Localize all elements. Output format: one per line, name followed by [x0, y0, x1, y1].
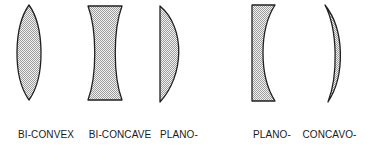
- lens-label-line: CONCAVO-: [292, 129, 367, 141]
- concavo-convex-lens-icon: [292, 0, 367, 106]
- lens-label-line: PLANO-: [133, 129, 225, 141]
- lens-label-plano-convex: PLANO- CONVEX: [133, 106, 225, 151]
- lens-label-concavo-convex: CONCAVO- CONVEX (MENISCUS): [292, 106, 367, 151]
- plano-convex-lens-icon: [133, 0, 225, 106]
- lens-item-plano-convex: PLANO- CONVEX: [133, 0, 225, 151]
- lens-item-concavo-convex: CONCAVO- CONVEX (MENISCUS): [292, 0, 367, 151]
- lens-types-diagram: BI-CONVEX BI-CONCAVE: [0, 0, 367, 151]
